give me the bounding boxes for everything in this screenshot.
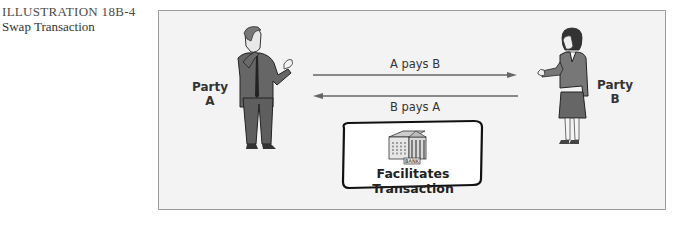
arrow-b-pays-a: [313, 93, 518, 99]
man-figure: [238, 27, 293, 149]
party-b-label: Party B: [595, 78, 635, 106]
bank-sign: BANK: [405, 158, 420, 164]
woman-figure: [538, 28, 588, 144]
bank-building-icon: BANK: [389, 131, 426, 164]
party-b-line1: Party: [595, 78, 635, 92]
party-a-label: Party A: [190, 80, 230, 108]
arrow-a-pays-b: [313, 72, 517, 78]
party-a-line1: Party: [190, 80, 230, 94]
flow-label-b-pays-a: B pays A: [355, 100, 475, 114]
flow-label-a-pays-b: A pays B: [355, 57, 475, 71]
party-b-line2: B: [595, 92, 635, 106]
party-a-line2: A: [190, 94, 230, 108]
intermediary-label: Facilitates Transaction: [338, 166, 488, 196]
